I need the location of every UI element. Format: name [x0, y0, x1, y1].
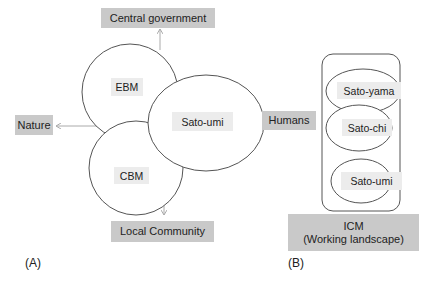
cbm-label: CBM [114, 167, 149, 184]
humans-box: Humans [262, 111, 316, 130]
panel-a-label: (A) [25, 256, 41, 270]
icm-box: ICM (Working landscape) [288, 214, 419, 251]
sato-yama-label: Sato-yama [337, 82, 401, 99]
panel-b-label: (B) [288, 256, 304, 270]
icm-subtitle: (Working landscape) [303, 233, 404, 246]
sato-umi-b-label: Sato-umi [341, 172, 402, 190]
icm-title: ICM [343, 220, 363, 233]
local-community-box: Local Community [111, 221, 214, 242]
sato-chi-label: Sato-chi [342, 119, 392, 136]
sato-umi-label: Sato-umi [172, 112, 233, 131]
central-government-box: Central government [101, 8, 215, 28]
nature-box: Nature [15, 115, 53, 135]
ebm-label: EBM [111, 78, 143, 96]
